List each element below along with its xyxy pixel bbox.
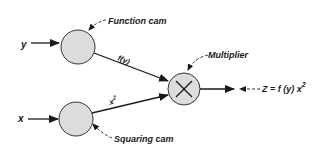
function-cam-label: Function cam bbox=[108, 16, 167, 26]
cam-multiplier-diagram: y Function cam x Squaring cam f(y) x2 Mu… bbox=[0, 0, 331, 153]
output-formula: Z = f (y) x2 bbox=[261, 81, 306, 94]
multiplier-label: Multiplier bbox=[208, 50, 248, 60]
edge-x-squared-label: x2 bbox=[107, 94, 119, 107]
input-y-label: y bbox=[20, 39, 27, 50]
squaring-cam-label: Squaring cam bbox=[114, 134, 174, 144]
edge-x-squared bbox=[92, 95, 168, 113]
function-cam-pointer bbox=[89, 20, 106, 30]
squaring-cam-node bbox=[59, 102, 93, 136]
squaring-cam-pointer bbox=[93, 124, 112, 138]
multiplier-pointer bbox=[188, 55, 208, 70]
function-cam-node bbox=[61, 30, 95, 64]
input-x-label: x bbox=[17, 113, 24, 124]
edge-f-of-y-label: f(y) bbox=[116, 54, 131, 67]
